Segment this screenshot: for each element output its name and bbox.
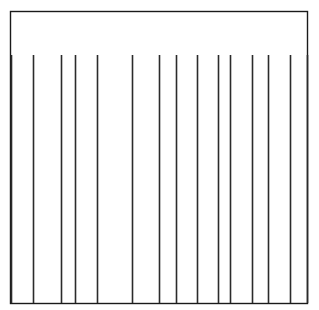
figure-container xyxy=(0,0,319,310)
vertical-lines-figure xyxy=(0,0,319,310)
